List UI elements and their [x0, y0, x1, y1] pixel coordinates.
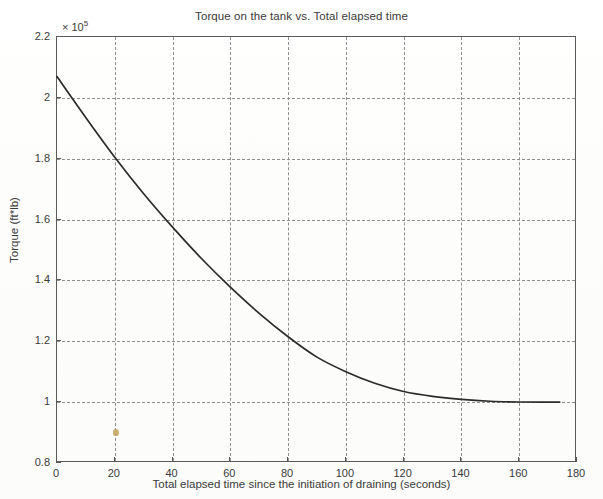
y-axis-exponent-prefix: × 10	[62, 21, 84, 33]
torque-curve	[57, 77, 560, 403]
y-tick-mark	[56, 279, 61, 280]
x-tick-mark	[460, 457, 461, 462]
y-axis-exponent-label: × 105	[62, 19, 88, 33]
y-axis-exponent-power: 5	[84, 19, 88, 28]
y-tick-label: 2.2	[10, 30, 50, 42]
chart-title: Torque on the tank vs. Total elapsed tim…	[0, 10, 603, 22]
y-tick-mark	[56, 97, 61, 98]
x-tick-mark	[114, 457, 115, 462]
x-tick-mark	[229, 457, 230, 462]
y-tick-mark	[56, 462, 61, 463]
y-tick-mark	[56, 158, 61, 159]
x-tick-mark	[172, 457, 173, 462]
x-axis-label: Total elapsed time since the initiation …	[0, 478, 603, 490]
data-curve-layer	[57, 37, 577, 463]
x-tick-mark	[403, 457, 404, 462]
y-tick-label: 1.2	[10, 334, 50, 346]
x-tick-mark	[518, 457, 519, 462]
scan-speck-artifact	[113, 429, 119, 436]
y-tick-label: 1	[10, 395, 50, 407]
plot-area	[56, 36, 576, 462]
y-tick-label: 1.8	[10, 152, 50, 164]
chart-page: Torque on the tank vs. Total elapsed tim…	[0, 0, 603, 499]
y-tick-mark	[56, 219, 61, 220]
y-tick-mark	[56, 340, 61, 341]
x-tick-mark	[576, 457, 577, 462]
y-axis-label: Torque (ft*lb)	[8, 170, 20, 290]
y-tick-mark	[56, 36, 61, 37]
x-tick-mark	[345, 457, 346, 462]
y-tick-label: 0.8	[10, 456, 50, 468]
y-tick-label: 2	[10, 91, 50, 103]
y-tick-mark	[56, 401, 61, 402]
x-tick-mark	[287, 457, 288, 462]
